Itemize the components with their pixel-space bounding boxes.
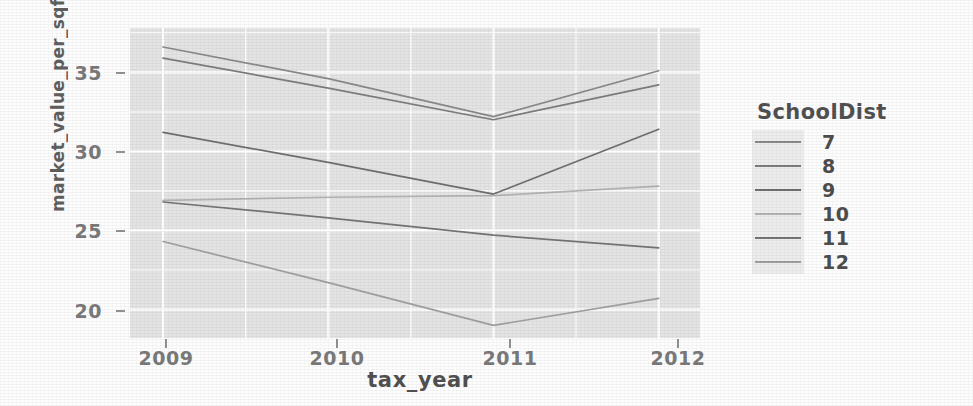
legend-label-11: 11 xyxy=(822,227,849,249)
legend-label-7: 7 xyxy=(822,131,836,153)
y-tick-mark-30 xyxy=(116,151,125,153)
gridlines-major xyxy=(130,28,700,338)
legend-label-12: 12 xyxy=(822,251,849,273)
legend-key-line-8 xyxy=(755,165,801,167)
y-tick-mark-20 xyxy=(116,310,125,312)
legend-key-line-7 xyxy=(755,141,801,143)
legend-key-11 xyxy=(752,226,804,250)
x-tick-label-2011: 2011 xyxy=(465,347,555,369)
legend-item-7[interactable]: 7 xyxy=(752,130,952,154)
x-axis-title: tax_year xyxy=(250,368,590,392)
legend-item-11[interactable]: 11 xyxy=(752,226,952,250)
legend-key-9 xyxy=(752,178,804,202)
legend-label-9: 9 xyxy=(822,179,836,201)
legend-key-line-9 xyxy=(755,189,801,191)
legend-item-9[interactable]: 9 xyxy=(752,178,952,202)
gridlines-minor xyxy=(130,28,700,338)
y-tick-label-20: 20 xyxy=(56,300,102,322)
legend-item-8[interactable]: 8 xyxy=(752,154,952,178)
legend: SchoolDist 789101112 xyxy=(752,100,952,274)
plot-panel xyxy=(130,28,700,338)
legend-title: SchoolDist xyxy=(757,100,952,124)
legend-label-10: 10 xyxy=(822,203,849,225)
legend-items: 789101112 xyxy=(752,130,952,274)
legend-item-10[interactable]: 10 xyxy=(752,202,952,226)
x-tick-label-2010: 2010 xyxy=(292,347,382,369)
y-tick-mark-35 xyxy=(116,72,125,74)
legend-key-8 xyxy=(752,154,804,178)
legend-key-line-12 xyxy=(755,261,801,263)
legend-key-7 xyxy=(752,130,804,154)
legend-key-12 xyxy=(752,250,804,274)
y-tick-label-25: 25 xyxy=(56,220,102,242)
chart-figure: 35 30 25 20 market_value_per_sqft 2009 2… xyxy=(0,0,973,406)
legend-key-line-10 xyxy=(755,213,801,215)
y-tick-mark-25 xyxy=(116,230,125,232)
x-tick-label-2009: 2009 xyxy=(121,347,211,369)
plot-lines-svg xyxy=(130,28,700,338)
legend-key-10 xyxy=(752,202,804,226)
legend-label-8: 8 xyxy=(822,155,836,177)
y-axis-title: market_value_per_sqft xyxy=(48,0,68,212)
legend-key-line-11 xyxy=(755,237,801,239)
legend-item-12[interactable]: 12 xyxy=(752,250,952,274)
x-tick-label-2012: 2012 xyxy=(633,347,723,369)
